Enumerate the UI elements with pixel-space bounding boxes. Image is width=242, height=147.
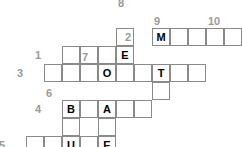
clue-number-1: 1 <box>35 50 41 61</box>
crossword-cell-empty[interactable] <box>224 28 242 46</box>
crossword-cell-filled[interactable]: M <box>152 28 170 46</box>
crossword-cell-empty[interactable] <box>44 136 62 147</box>
crossword-cell-empty[interactable] <box>188 28 206 46</box>
crossword-cell-empty[interactable] <box>170 28 188 46</box>
crossword-cell-empty[interactable] <box>26 136 44 147</box>
crossword-cell-empty[interactable] <box>188 64 206 82</box>
crossword-cell-empty[interactable] <box>206 28 224 46</box>
crossword-cell-filled[interactable]: E <box>98 136 116 147</box>
crossword-cell-filled[interactable]: A <box>98 100 116 118</box>
clue-number-2: 2 <box>125 32 131 43</box>
clue-number-6: 6 <box>46 88 52 99</box>
crossword-cell-empty[interactable] <box>80 136 98 147</box>
crossword-cell-empty[interactable] <box>80 64 98 82</box>
crossword-cell-filled[interactable]: O <box>98 64 116 82</box>
clue-number-10: 10 <box>208 16 220 27</box>
clue-number-5: 5 <box>0 140 5 147</box>
crossword-cell-filled[interactable]: B <box>62 100 80 118</box>
clue-number-4: 4 <box>35 104 41 115</box>
crossword-cell-empty[interactable] <box>170 64 188 82</box>
crossword-cell-filled[interactable]: U <box>62 136 80 147</box>
crossword-cell-empty[interactable] <box>116 100 134 118</box>
crossword-cell-empty[interactable] <box>134 64 152 82</box>
crossword-cell-filled[interactable]: T <box>152 64 170 82</box>
crossword-cell-empty[interactable] <box>152 82 170 100</box>
crossword-puzzle: EOTBAUEMN12345678910 <box>0 0 242 147</box>
clue-number-8: 8 <box>118 0 124 9</box>
clue-number-9: 9 <box>154 16 160 27</box>
clue-number-7: 7 <box>82 52 88 63</box>
crossword-cell-empty[interactable] <box>98 46 116 64</box>
crossword-cell-empty[interactable] <box>116 64 134 82</box>
crossword-cell-empty[interactable] <box>62 64 80 82</box>
crossword-cell-empty[interactable] <box>134 100 152 118</box>
crossword-cell-empty[interactable] <box>98 118 116 136</box>
crossword-cell-empty[interactable] <box>62 46 80 64</box>
crossword-cell-filled[interactable]: E <box>116 46 134 64</box>
crossword-cell-empty[interactable] <box>62 118 80 136</box>
clue-number-3: 3 <box>17 68 23 79</box>
crossword-cell-empty[interactable] <box>44 64 62 82</box>
crossword-cell-empty[interactable] <box>80 100 98 118</box>
